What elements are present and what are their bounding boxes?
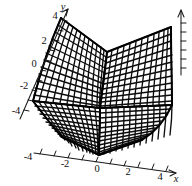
z-axis-ticks [181, 23, 186, 68]
x-axis-label: x [173, 173, 179, 184]
plot-canvas: -4 -2 0 2 4 x -4 -2 [0, 0, 192, 186]
x-axis-line [34, 153, 176, 173]
x-tick-label--4: -4 [24, 151, 33, 162]
surface-plot-figure: -4 -2 0 2 4 x -4 -2 [0, 0, 192, 186]
x-tick-label--2: -2 [61, 158, 70, 169]
y-tick-label-0: 0 [31, 58, 36, 69]
x-tick-label-2: 2 [125, 166, 130, 177]
x-tick-label-0: 0 [94, 163, 99, 174]
y-axis-label: y [60, 1, 66, 12]
edge-right-outer [171, 27, 172, 105]
y-tick-label-2: 2 [41, 35, 46, 46]
surface-mesh [33, 18, 172, 155]
y-tick-label--4: -4 [12, 105, 21, 116]
y-tick-label--2: -2 [20, 80, 29, 91]
z-axis [178, 10, 186, 75]
crease-origin-cusp [99, 108, 100, 155]
x-tick-label-4: 4 [157, 171, 163, 182]
y-tick-label-4: 4 [52, 10, 58, 21]
